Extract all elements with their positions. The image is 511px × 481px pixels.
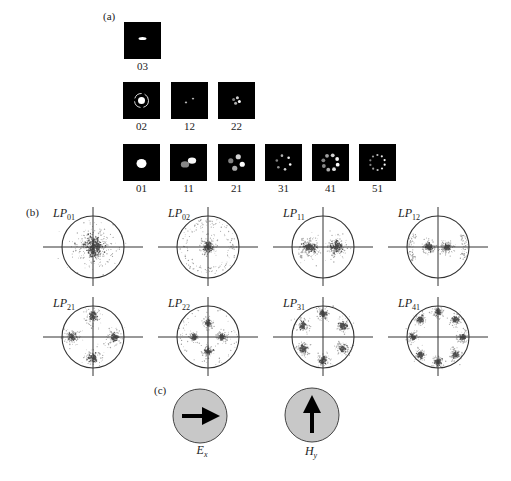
lp-subscript: 12: [412, 213, 420, 222]
mode-spot: [277, 166, 280, 169]
mode-spot: [331, 153, 335, 157]
mode-spot: [232, 166, 237, 171]
mode-label: 01: [136, 182, 147, 194]
lp-prefix: LP: [167, 206, 183, 220]
mode-image: [265, 144, 302, 181]
mode-spot: [322, 164, 326, 168]
mode-spot: [281, 154, 284, 157]
mode-spot: [321, 158, 325, 162]
mode-spot: [381, 167, 383, 169]
mode-spot: [276, 159, 279, 162]
mode-spot: [188, 157, 196, 163]
mode-spot: [326, 168, 330, 172]
mode-label: 03: [137, 60, 149, 72]
mode-spot: [383, 159, 385, 161]
mode-spot: [376, 154, 378, 156]
lp-subscript: 22: [182, 303, 190, 312]
lp-subscript: 31: [297, 303, 305, 312]
mode-image: [359, 144, 396, 181]
mode-spot: [138, 97, 145, 104]
mode-label: 12: [184, 120, 195, 132]
lp-subscript: 02: [182, 213, 190, 222]
lp-prefix: LP: [52, 206, 68, 220]
lp-prefix: LP: [397, 296, 413, 310]
mode-spot: [369, 164, 371, 166]
mode-spot: [232, 98, 235, 101]
lp-subscript: 21: [67, 303, 75, 312]
mode-spot: [336, 163, 340, 167]
mode-spot: [284, 168, 287, 171]
mode-label: 31: [278, 182, 289, 194]
mode-spot: [234, 102, 237, 105]
mode-spot: [139, 37, 147, 40]
lp-prefix: LP: [282, 206, 298, 220]
mode-image: [171, 82, 208, 119]
panel-b-label: (b): [26, 206, 39, 219]
lp-prefix: LP: [167, 296, 183, 310]
mode-spot: [289, 163, 292, 166]
lp-prefix: LP: [52, 296, 68, 310]
field-subscript: x: [203, 450, 208, 459]
lp-subscript: 01: [67, 213, 75, 222]
mode-spot: [377, 169, 379, 171]
panel-c-label: (c): [154, 384, 167, 397]
mode-label: 51: [372, 182, 383, 194]
mode-label: 21: [231, 182, 242, 194]
mode-spots: [137, 159, 147, 168]
mode-spot: [335, 157, 339, 161]
mode-spot: [332, 167, 336, 171]
mode-spot: [236, 96, 239, 99]
lp-subscript: 11: [297, 213, 305, 222]
lp-prefix: LP: [282, 296, 298, 310]
lp-prefix: LP: [397, 206, 413, 220]
figure-background: [0, 0, 511, 481]
mode-spot: [381, 155, 383, 157]
mode-label: 02: [136, 120, 147, 132]
mode-label: 22: [231, 120, 242, 132]
mode-spots: [139, 37, 147, 40]
lp-subscript: 41: [412, 303, 420, 312]
mode-spot: [240, 162, 245, 167]
mode-label: 41: [325, 182, 336, 194]
mode-spot: [372, 168, 374, 170]
mode-spot: [228, 158, 233, 163]
field-subscript: y: [313, 451, 318, 460]
mode-spot: [369, 159, 371, 161]
mode-image: [218, 82, 255, 119]
mode-image: [124, 22, 161, 59]
mode-image: [218, 144, 255, 181]
mode-spot: [236, 154, 241, 159]
mode-spot: [137, 159, 147, 168]
mode-spot: [185, 102, 187, 104]
mode-spot: [372, 155, 374, 157]
mode-spot: [238, 100, 241, 103]
mode-spot: [192, 98, 194, 100]
mode-label: 11: [183, 182, 194, 194]
fiber-modes-figure: (a) 03021222011121314151 (b) LP01LP02LP1…: [0, 0, 511, 481]
mode-spot: [384, 164, 386, 166]
mode-image: [312, 144, 349, 181]
mode-spot: [287, 156, 290, 159]
mode-image: [170, 144, 207, 181]
panel-a-label: (a): [103, 10, 116, 23]
mode-spot: [181, 161, 189, 167]
mode-spot: [325, 154, 329, 158]
